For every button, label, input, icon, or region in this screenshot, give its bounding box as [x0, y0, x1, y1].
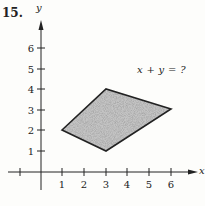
svg-text:5: 5 [28, 64, 34, 75]
x-tick-labels: 1 2 3 4 5 6 [59, 179, 174, 190]
svg-text:4: 4 [124, 179, 130, 190]
svg-text:6: 6 [28, 43, 34, 54]
svg-text:1: 1 [28, 146, 34, 157]
svg-text:3: 3 [103, 179, 109, 190]
svg-text:1: 1 [59, 179, 65, 190]
svg-text:6: 6 [168, 179, 174, 190]
svg-text:4: 4 [28, 84, 34, 95]
y-axis [37, 20, 45, 190]
y-arrow-icon [39, 20, 44, 30]
coordinate-plane: 1 2 3 4 5 6 1 2 3 4 5 6 [0, 0, 205, 206]
x-arrow-icon [188, 170, 198, 175]
svg-text:5: 5 [146, 179, 152, 190]
svg-text:2: 2 [81, 179, 87, 190]
y-tick-labels: 1 2 3 4 5 6 [28, 43, 34, 157]
shaded-quadrilateral [62, 89, 171, 151]
svg-text:2: 2 [28, 125, 34, 136]
svg-text:3: 3 [28, 105, 34, 116]
x-axis [8, 168, 198, 176]
